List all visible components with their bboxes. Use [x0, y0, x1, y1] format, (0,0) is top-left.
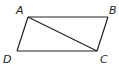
vertex-label-a: A — [15, 4, 24, 17]
diagonal-ac — [28, 17, 97, 51]
vertex-label-c: C — [100, 53, 108, 65]
vertex-label-b: B — [109, 4, 117, 17]
vertex-label-d: D — [3, 53, 11, 65]
edge-bc — [97, 17, 108, 51]
edge-da — [17, 17, 28, 51]
parallelogram-diagram: A B C D — [0, 0, 119, 65]
